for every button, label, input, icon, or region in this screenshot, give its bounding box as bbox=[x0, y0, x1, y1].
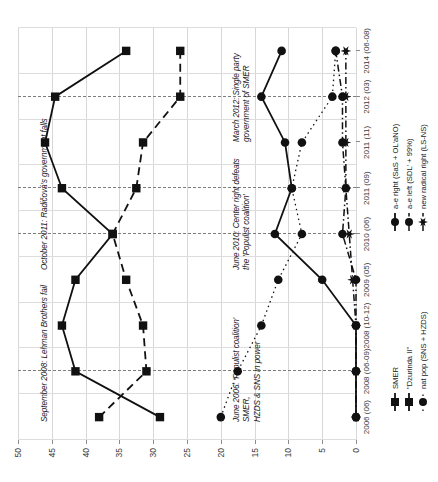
legend-marker-icon bbox=[403, 392, 415, 412]
x-axis-tick-mark bbox=[356, 187, 360, 188]
x-axis-tick-label: 2010 (06) bbox=[362, 217, 371, 251]
legend-item[interactable]: a-e right (SaS + OL'aNO) bbox=[388, 124, 402, 232]
data-point-square bbox=[139, 138, 147, 146]
data-point-square bbox=[58, 184, 66, 192]
data-point-square bbox=[108, 230, 116, 238]
x-axis-tick-mark bbox=[356, 141, 360, 142]
y-axis-tick-label: 45 bbox=[47, 448, 57, 478]
y-axis-tick-label: 50 bbox=[13, 448, 23, 478]
y-axis-tick-mark bbox=[119, 440, 120, 444]
y-axis-tick-mark bbox=[52, 440, 53, 444]
x-axis-tick-label: 2008 (10-12) bbox=[362, 303, 371, 349]
y-axis-tick-label: 5 bbox=[317, 448, 327, 478]
x-axis-tick-label: 2006 (06) bbox=[362, 400, 371, 434]
legend-item[interactable]: "Dzurinda II" bbox=[402, 312, 416, 412]
y-axis-tick-mark bbox=[255, 440, 256, 444]
y-axis-tick-mark bbox=[86, 440, 87, 444]
x-axis-tick-mark bbox=[356, 233, 360, 234]
y-axis-tick-label: 20 bbox=[216, 448, 226, 478]
legend-marker-icon bbox=[389, 392, 401, 412]
y-axis-tick-mark bbox=[288, 440, 289, 444]
y-axis-tick-label: 40 bbox=[81, 448, 91, 478]
x-axis-tick-label: 2014 (06-08) bbox=[362, 28, 371, 74]
y-axis-tick-mark bbox=[187, 440, 188, 444]
data-point-circle bbox=[331, 47, 340, 56]
x-axis-tick-label: 2011 (11) bbox=[362, 126, 371, 159]
legend-marker-icon bbox=[417, 212, 429, 232]
data-point-square bbox=[51, 92, 59, 100]
legend-item-label: a-e left (SDL' + 99%) bbox=[405, 139, 414, 209]
y-axis-tick-label: 25 bbox=[182, 448, 192, 478]
data-point-circle bbox=[318, 275, 327, 284]
data-point-square bbox=[41, 138, 49, 146]
legend-marker-icon bbox=[389, 212, 401, 232]
legend-item[interactable]: new radical right (LS-NS) bbox=[416, 124, 430, 232]
data-point-square bbox=[71, 367, 79, 375]
data-point-circle bbox=[277, 47, 286, 56]
x-axis-tick-label: 2008 (06-09) bbox=[362, 348, 371, 394]
y-axis-tick-label: 0 bbox=[351, 448, 361, 478]
y-axis-tick-mark bbox=[322, 440, 323, 444]
x-axis-tick-label: 2009 (05) bbox=[362, 263, 371, 297]
data-point-square bbox=[156, 413, 164, 421]
legend-item-label: new radical right (LS-NS) bbox=[419, 124, 428, 209]
x-axis-tick-label: 2011 (09) bbox=[362, 171, 371, 205]
series-2 bbox=[95, 47, 185, 422]
data-point-circle bbox=[233, 367, 242, 376]
y-axis-tick-label: 15 bbox=[250, 448, 260, 478]
data-point-circle bbox=[257, 92, 266, 101]
legend-marker-icon bbox=[403, 212, 415, 232]
legend-column-2: a-e right (SaS + OL'aNO)a-e left (SDL' +… bbox=[388, 124, 430, 232]
legend-item-label: SMER bbox=[391, 367, 400, 389]
y-axis-tick-mark bbox=[18, 440, 19, 444]
chart-figure: 05101520253035404550 2006 (06)2008 (06-0… bbox=[0, 0, 438, 482]
x-axis-tick-mark bbox=[356, 96, 360, 97]
legend-marker-icon bbox=[417, 392, 429, 412]
data-point-circle bbox=[287, 184, 296, 193]
legend-item-label: "Dzurinda II" bbox=[405, 347, 414, 389]
x-axis-tick-label: 2012 (03) bbox=[362, 80, 371, 114]
legend-item-label: a-e right (SaS + OL'aNO) bbox=[391, 124, 400, 209]
y-axis-tick-mark bbox=[153, 440, 154, 444]
chart-rotation-stage: 05101520253035404550 2006 (06)2008 (06-0… bbox=[0, 0, 438, 482]
legend-item[interactable]: a-e left (SDL' + 99%) bbox=[402, 124, 416, 232]
data-point-square bbox=[139, 321, 147, 329]
data-point-circle bbox=[298, 230, 307, 239]
data-point-square bbox=[176, 92, 184, 100]
data-point-circle bbox=[217, 413, 226, 422]
data-point-square bbox=[176, 47, 184, 55]
legend-item[interactable]: nat pop (SNS + HZDS) bbox=[416, 312, 430, 412]
data-point-square bbox=[142, 367, 150, 375]
data-point-square bbox=[58, 321, 66, 329]
legend-column-1: SMER"Dzurinda II"nat pop (SNS + HZDS) bbox=[388, 312, 430, 412]
data-point-square bbox=[122, 276, 130, 284]
y-axis-tick-mark bbox=[221, 440, 222, 444]
data-point-circle bbox=[328, 92, 337, 101]
data-point-square bbox=[132, 184, 140, 192]
legend-item[interactable]: SMER bbox=[388, 312, 402, 412]
y-axis-tick-label: 10 bbox=[283, 448, 293, 478]
chart-legend: SMER"Dzurinda II"nat pop (SNS + HZDS)a-e… bbox=[388, 22, 434, 412]
data-point-circle bbox=[271, 230, 280, 239]
data-point-square bbox=[122, 47, 130, 55]
series-layer bbox=[18, 28, 356, 440]
y-axis-tick-label: 35 bbox=[114, 448, 124, 478]
legend-item-label: nat pop (SNS + HZDS) bbox=[419, 312, 428, 389]
data-point-circle bbox=[298, 138, 307, 147]
data-point-square bbox=[71, 276, 79, 284]
y-axis-tick-mark bbox=[356, 440, 357, 444]
series-line bbox=[45, 51, 160, 417]
plot-outer: 05101520253035404550 2006 (06)2008 (06-0… bbox=[0, 0, 438, 482]
y-axis-tick-label: 30 bbox=[148, 448, 158, 478]
data-point-square bbox=[95, 413, 103, 421]
data-point-circle bbox=[281, 138, 290, 147]
data-point-circle bbox=[257, 321, 266, 330]
x-axis-tick-mark bbox=[356, 50, 360, 51]
data-point-circle bbox=[274, 275, 283, 284]
